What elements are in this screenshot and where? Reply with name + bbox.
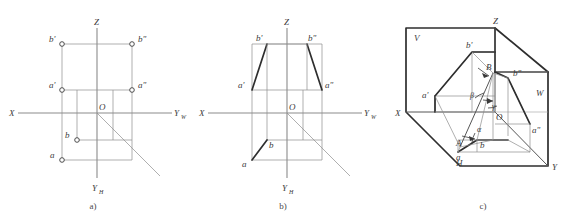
label-b-dprime-a: b" <box>138 34 147 44</box>
point-a-a <box>60 158 65 163</box>
label-axis-z-a: Z <box>94 17 100 27</box>
segment-ab-top-b <box>252 140 267 160</box>
label-b-c: b <box>480 140 485 150</box>
label-angle-beta-c: β <box>469 91 474 100</box>
caption-c: c) <box>480 201 487 211</box>
label-a-dprime-a: a" <box>138 80 147 90</box>
label-axis-yw-b: Y <box>364 108 370 118</box>
label-plane-w-c: W <box>536 88 545 98</box>
label-a-a: a <box>50 150 55 160</box>
miter-line-b <box>287 113 350 176</box>
label-axis-x-a: X <box>8 108 15 118</box>
segment-AB-c <box>460 73 493 147</box>
diag-h-to-w-c <box>508 140 530 152</box>
label-axis-z-b: Z <box>284 17 290 27</box>
label-b-dprime-b: b" <box>308 33 317 43</box>
label-axis-yh-a: Y <box>92 183 98 193</box>
label-b-a: b <box>65 130 70 140</box>
label-axis-yw-a: Y <box>174 108 180 118</box>
label-axis-yh-b: Y <box>282 183 288 193</box>
label-a-prime-b: a' <box>238 80 246 90</box>
label-b-prime-b: b' <box>256 33 264 43</box>
caption-a: a) <box>90 201 97 211</box>
label-a-b: a <box>242 159 247 169</box>
point-b-prime-a <box>60 42 65 47</box>
label-axis-yw-sub-b: W <box>371 114 377 120</box>
label-angle-alpha-c: α <box>477 125 482 134</box>
label-a-c: a <box>456 152 461 162</box>
label-plane-v-c: V <box>414 33 421 43</box>
label-origin-c: O <box>496 112 503 122</box>
projection-diagram-a: b' b" a' a" b a O Z X Y W Y H a) <box>0 0 190 219</box>
point-b-a <box>75 138 80 143</box>
label-a-dprime-b: a" <box>325 80 334 90</box>
label-b-b: b <box>269 140 274 150</box>
label-axis-x-c: X <box>394 108 401 118</box>
label-b-prime-c: b' <box>466 40 474 50</box>
segment-ab-side-b <box>307 44 322 90</box>
projection-diagram-c: Z X Y V H W b' b" a' a" b a A B O α β γ … <box>380 0 572 219</box>
label-a-dprime-c: a" <box>532 125 541 135</box>
projection-diagram-b: b' b" a' a" b a O Z X Y W Y H b) <box>190 0 380 219</box>
miter-line-a <box>97 113 160 176</box>
caption-b: b) <box>279 201 287 211</box>
figure-root: b' b" a' a" b a O Z X Y W Y H a) <box>0 0 572 219</box>
axis-y-c <box>495 112 548 166</box>
segment-ab-front-b <box>252 44 267 90</box>
label-a-prime-c: a' <box>422 90 430 100</box>
label-A-c: A <box>455 138 462 148</box>
point-a-dprime-a <box>130 88 135 93</box>
label-b-dprime-c: b" <box>513 68 522 78</box>
label-axis-yh-sub-b: H <box>288 189 294 195</box>
label-axis-yh-sub-a: H <box>98 189 104 195</box>
point-b-dprime-a <box>130 42 135 47</box>
label-B-c: B <box>486 62 492 72</box>
label-origin-b: O <box>289 102 296 112</box>
label-a-prime-a: a' <box>49 80 57 90</box>
label-axis-y-c: Y <box>552 162 558 172</box>
label-b-prime-a: b' <box>49 34 57 44</box>
label-origin-a: O <box>99 102 106 112</box>
label-axis-yw-sub-a: W <box>181 114 187 120</box>
label-axis-z-c: Z <box>493 16 499 26</box>
label-axis-x-b: X <box>198 108 205 118</box>
point-a-prime-a <box>60 88 65 93</box>
